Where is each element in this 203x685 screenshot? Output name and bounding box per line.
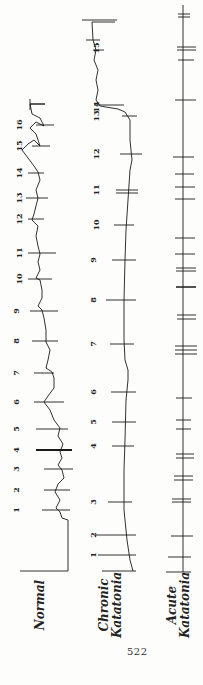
- mark-label: 12: [14, 213, 24, 224]
- mark-label: 8: [11, 338, 21, 344]
- mark-label: 11: [14, 247, 24, 258]
- mark-label: 4: [88, 443, 98, 449]
- mark-label: 1: [11, 507, 21, 513]
- mark-label: 9: [88, 257, 98, 263]
- mark-label: 16: [14, 119, 24, 130]
- trace-label-chronic-katatonia: Chronic Katatonia: [98, 570, 124, 640]
- mark-label: 10: [14, 273, 24, 284]
- mark-label: 7: [88, 341, 98, 347]
- mark-label: 8: [88, 297, 98, 303]
- trace-label-acute-katatonia: Acute Katatonia: [166, 570, 192, 640]
- normal-trace: [20, 104, 68, 571]
- trace-label-normal: Normal: [34, 570, 47, 640]
- page-number: 522: [127, 646, 148, 657]
- mark-label: 14: [91, 101, 101, 112]
- mark-label: 5: [88, 419, 98, 425]
- mark-label: 12: [91, 148, 101, 159]
- mark-label: 14: [14, 167, 24, 178]
- mark-label: 4: [11, 447, 21, 453]
- mark-label: 3: [88, 499, 98, 505]
- mark-label: 15: [91, 42, 101, 53]
- mark-label: 5: [11, 426, 21, 432]
- mark-label: 15: [14, 140, 24, 151]
- mark-label: 2: [88, 532, 98, 538]
- mark-label: 3: [11, 466, 21, 472]
- chronic-katatonia-ticks: [82, 20, 142, 555]
- mark-label: 6: [88, 389, 98, 395]
- normal-ticks: [26, 99, 73, 510]
- mark-label: 7: [11, 370, 21, 376]
- trace-label-chronic-line2: Katatonia: [111, 570, 124, 640]
- acute-katatonia-trace: [166, 5, 191, 572]
- trace-label-normal-line1: Normal: [33, 580, 47, 630]
- mark-label: 11: [91, 184, 101, 195]
- mark-label: 13: [14, 192, 24, 203]
- mark-label: 1: [88, 552, 98, 558]
- acute-katatonia-ticks: [168, 14, 197, 557]
- mark-label: 9: [11, 308, 21, 314]
- trace-label-acute-line2: Katatonia: [179, 570, 192, 640]
- mark-label: 10: [91, 219, 101, 230]
- mark-label: 6: [11, 399, 21, 405]
- mark-label: 2: [11, 487, 21, 493]
